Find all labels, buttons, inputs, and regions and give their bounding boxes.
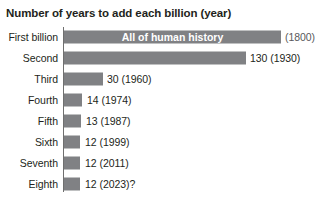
bar-row-eighth: Eighth 12 (2023)?: [0, 174, 327, 194]
bar-seventh: [64, 157, 80, 170]
value-label-eighth: 12 (2023)?: [85, 178, 135, 190]
category-label-first-billion: First billion: [0, 31, 58, 43]
value-label-sixth: 12 (1999): [85, 136, 130, 148]
value-label-seventh: 12 (2011): [85, 157, 129, 169]
bar-row-fourth: Fourth 14 (1974): [0, 90, 327, 110]
bar-eighth: [64, 178, 80, 191]
bar-row-first-billion: First billion All of human history (1800…: [0, 27, 327, 47]
bar-third: [64, 73, 103, 86]
category-label-fourth: Fourth: [0, 94, 58, 106]
bar-row-second: Second 130 (1930): [0, 48, 327, 68]
category-label-second: Second: [0, 52, 58, 64]
bar-sixth: [64, 136, 80, 149]
plot-area: First billion All of human history (1800…: [0, 27, 327, 195]
value-label-second: 130 (1930): [250, 52, 300, 64]
category-label-eighth: Eighth: [0, 178, 58, 190]
category-label-seventh: Seventh: [0, 157, 58, 169]
bar-row-seventh: Seventh 12 (2011): [0, 153, 327, 173]
bar-second: [64, 52, 246, 65]
value-label-first-billion: (1800): [285, 31, 315, 43]
value-label-third: 30 (1960): [107, 73, 152, 85]
category-label-third: Third: [0, 73, 58, 85]
value-label-fourth: 14 (1974): [87, 94, 132, 106]
bar-fifth: [64, 115, 81, 128]
bar-row-sixth: Sixth 12 (1999): [0, 132, 327, 152]
bar-inner-label-first-billion: All of human history: [64, 31, 281, 44]
bar-fourth: [64, 94, 82, 107]
category-label-sixth: Sixth: [0, 136, 58, 148]
category-label-fifth: Fifth: [0, 115, 58, 127]
chart-title: Number of years to add each billion (yea…: [6, 7, 231, 19]
bar-row-fifth: Fifth 13 (1987): [0, 111, 327, 131]
chart-container: Number of years to add each billion (yea…: [0, 0, 327, 200]
bar-row-third: Third 30 (1960): [0, 69, 327, 89]
value-label-fifth: 13 (1987): [86, 115, 131, 127]
